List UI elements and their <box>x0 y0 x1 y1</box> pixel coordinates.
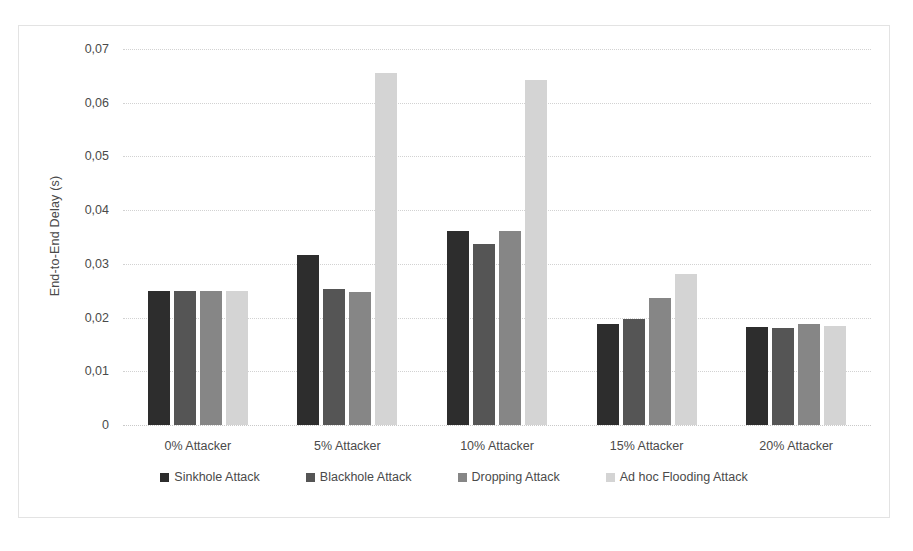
y-axis-tick-label: 0,07 <box>85 42 109 56</box>
bar <box>375 73 397 425</box>
y-axis-tick-label: 0,01 <box>85 364 109 378</box>
legend-item[interactable]: Ad hoc Flooding Attack <box>606 470 748 484</box>
bar <box>200 291 222 425</box>
bar <box>798 324 820 425</box>
legend-item-label: Blackhole Attack <box>320 470 412 484</box>
legend-item[interactable]: Sinkhole Attack <box>160 470 259 484</box>
legend-swatch-icon <box>160 473 169 482</box>
bar-group: 5% Attacker <box>273 49 423 425</box>
legend-swatch-icon <box>306 473 315 482</box>
bar <box>349 292 371 425</box>
legend-swatch-icon <box>458 473 467 482</box>
legend-swatch-icon <box>606 473 615 482</box>
gridline <box>123 425 871 426</box>
chart-container: End-to-End Delay (s) 0,070,060,050,040,0… <box>18 25 890 518</box>
chart-legend: Sinkhole AttackBlackhole AttackDropping … <box>19 470 889 484</box>
bar <box>649 298 671 425</box>
bar <box>772 328 794 425</box>
x-axis-category-label: 5% Attacker <box>314 439 381 453</box>
y-axis-tick-label: 0,02 <box>85 311 109 325</box>
bar <box>623 319 645 425</box>
bar-group: 20% Attacker <box>721 49 871 425</box>
y-axis-tick-label: 0,04 <box>85 203 109 217</box>
legend-item-label: Dropping Attack <box>472 470 560 484</box>
x-axis-category-label: 20% Attacker <box>759 439 833 453</box>
bar <box>226 291 248 425</box>
legend-item-label: Sinkhole Attack <box>174 470 259 484</box>
x-axis-category-label: 0% Attacker <box>164 439 231 453</box>
y-axis-tick-label: 0,05 <box>85 149 109 163</box>
legend-item[interactable]: Blackhole Attack <box>306 470 412 484</box>
bar-group: 10% Attacker <box>422 49 572 425</box>
bar-group: 0% Attacker <box>123 49 273 425</box>
bar <box>323 289 345 425</box>
bar <box>675 274 697 425</box>
bar <box>824 326 846 425</box>
legend-item-label: Ad hoc Flooding Attack <box>620 470 748 484</box>
bar <box>525 80 547 425</box>
bar <box>447 231 469 425</box>
legend-item[interactable]: Dropping Attack <box>458 470 560 484</box>
bar <box>499 231 521 425</box>
bar-group: 15% Attacker <box>572 49 722 425</box>
bar <box>174 291 196 425</box>
bar <box>473 244 495 425</box>
y-axis-tick-label: 0,03 <box>85 257 109 271</box>
y-axis-tick-label: 0 <box>102 418 109 432</box>
bar <box>746 327 768 425</box>
plot-area: 0,070,060,050,040,030,020,010 0% Attacke… <box>123 49 871 425</box>
x-axis-category-label: 15% Attacker <box>610 439 684 453</box>
bar <box>148 291 170 425</box>
bar <box>297 255 319 425</box>
bar <box>597 324 619 425</box>
y-axis-tick-label: 0,06 <box>85 96 109 110</box>
y-axis-title: End-to-End Delay (s) <box>48 176 62 297</box>
x-axis-category-label: 10% Attacker <box>460 439 534 453</box>
